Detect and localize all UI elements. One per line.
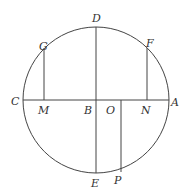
label-O: O [106, 104, 115, 117]
label-F: F [145, 37, 154, 50]
label-C: C [11, 95, 20, 108]
label-B: B [83, 104, 92, 117]
label-D: D [91, 12, 101, 25]
label-G: G [39, 40, 48, 53]
label-A: A [170, 96, 179, 109]
label-M: M [37, 104, 50, 117]
geometry-diagram: D G F C A M B O N E P [0, 0, 187, 196]
label-P: P [113, 174, 122, 187]
label-N: N [140, 104, 151, 117]
label-E: E [90, 177, 99, 190]
